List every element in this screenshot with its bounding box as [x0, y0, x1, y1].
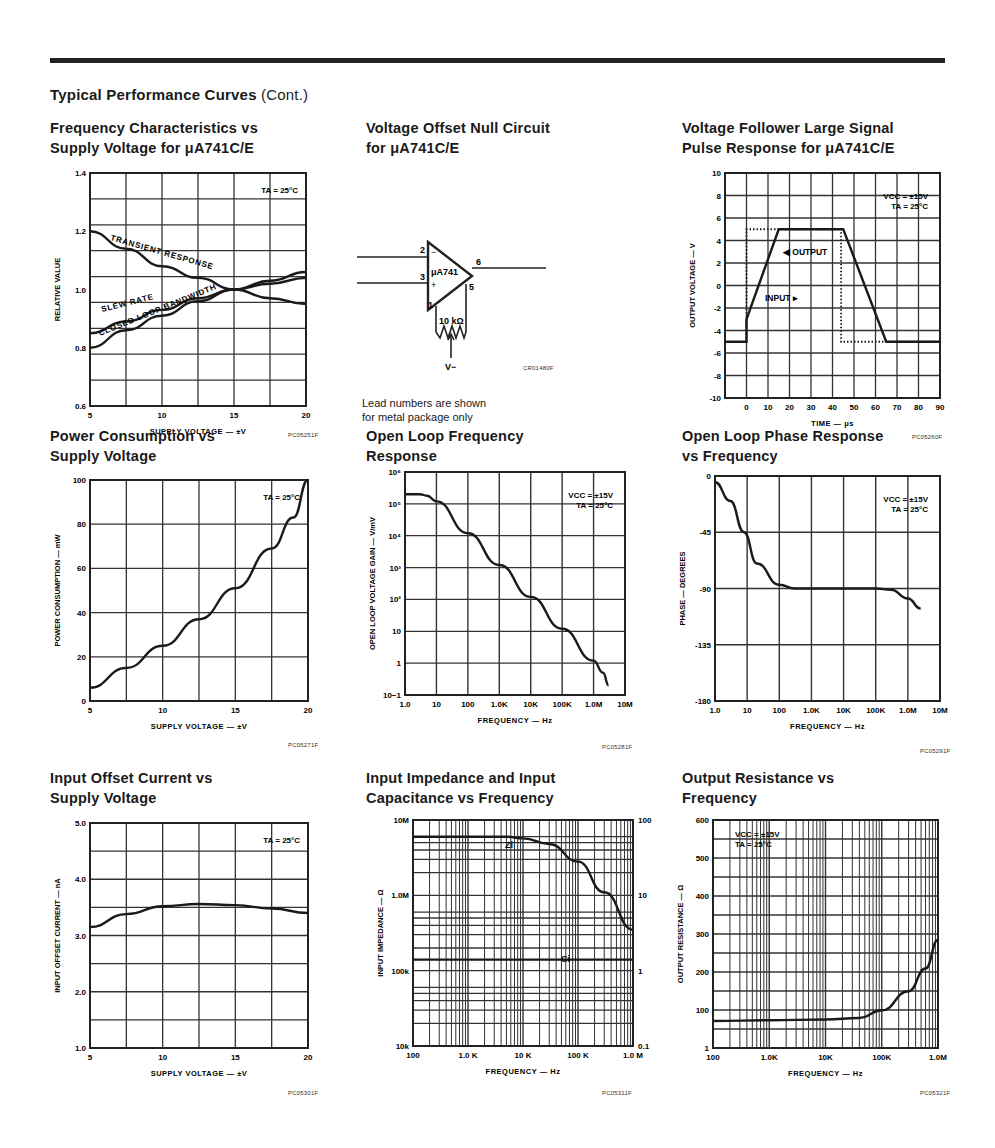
chart-input-offset-current: 51015201.02.03.04.05.0SUPPLY VOLTAGE — ±… — [40, 815, 330, 1085]
x-tick-label: 20 — [785, 403, 794, 412]
x-axis-label: FREQUENCY — Hz — [788, 1069, 863, 1078]
y-tick-label: 10M — [393, 816, 409, 825]
pin-5-label: 5 — [469, 282, 474, 292]
svg-text:VCC = ±15V: VCC = ±15V — [883, 495, 928, 504]
y-tick-label: 10⁴ — [388, 532, 401, 541]
y-tick-label: 1.0 — [75, 286, 87, 295]
y-tick-label: 10−1 — [383, 691, 402, 700]
y-axis-label: OUTPUT VOLTAGE — V — [688, 243, 697, 328]
x-tick-label: 80 — [914, 403, 923, 412]
x-tick-label: 10M — [617, 700, 633, 709]
y-tick-label: 8 — [717, 192, 722, 201]
x-tick-label: 1.0K — [491, 700, 508, 709]
x-tick-label: 50 — [850, 403, 859, 412]
y-tick-label: 10 — [712, 169, 721, 178]
x-tick-label: 100K — [872, 1053, 891, 1062]
x-tick-label: 10K — [523, 700, 538, 709]
grid — [713, 820, 938, 1048]
y-tick-label: 500 — [696, 854, 710, 863]
y-tick-label: 4 — [717, 237, 722, 246]
x-tick-label: 10 — [432, 700, 441, 709]
y-tick-label: 1 — [397, 659, 402, 668]
figure-code: PC05321F — [920, 1090, 950, 1096]
y-tick-label: 10⁵ — [388, 500, 401, 509]
svg-text:VCC = ±15V: VCC = ±15V — [735, 830, 780, 839]
y-tick-label: 10² — [389, 595, 401, 604]
y-tick-label: 400 — [696, 892, 710, 901]
y-tick-label: 1.2 — [75, 227, 87, 236]
y-tick-label: -135 — [695, 641, 712, 650]
y2-tick-label: 10 — [638, 891, 647, 900]
x-tick-label: 90 — [936, 403, 945, 412]
chart-output-resistance: 1001.0K10K100K1.0M1100200300400500600FRE… — [675, 812, 955, 1084]
olgain-title: Open Loop Frequency Response — [366, 426, 524, 466]
x-tick-label: 10 — [764, 403, 773, 412]
y-tick-label: -45 — [699, 528, 711, 537]
figure-code: PC05311F — [602, 1090, 632, 1096]
y-axis-label: INPUT IMPEDANCE — Ω — [376, 889, 385, 976]
conditions-annotation: VCC = ±15VTA = 25°C — [883, 192, 928, 211]
series-label: Ci — [561, 954, 570, 964]
x-tick-label: 15 — [230, 411, 239, 420]
x-tick-label: 5 — [88, 706, 93, 715]
y-tick-label: 20 — [77, 653, 86, 662]
x-tick-label: 100 K — [567, 1051, 589, 1060]
pin-6-label: 6 — [476, 257, 481, 267]
svg-text:TA = 25°C: TA = 25°C — [261, 186, 298, 195]
pin-3-label: 3 — [420, 272, 425, 282]
x-tick-label: 0 — [744, 403, 749, 412]
x-tick-label: 20 — [304, 1053, 313, 1062]
x-tick-label: 1.0K — [803, 706, 820, 715]
y-tick-label: 100 — [696, 1006, 710, 1015]
x-tick-label: 5 — [88, 411, 93, 420]
grid — [90, 823, 308, 1048]
y-tick-label: 1 — [705, 1044, 710, 1053]
svg-text:TA = 25°C: TA = 25°C — [263, 836, 300, 845]
x-tick-label: 100 — [706, 1053, 720, 1062]
x-tick-label: 70 — [893, 403, 902, 412]
rout-title: Output Resistance vs Frequency — [682, 768, 834, 808]
conditions-annotation: VCC = ±15VTA = 25°C — [568, 491, 613, 510]
header-rule — [50, 58, 945, 63]
y-tick-label: 10³ — [389, 564, 401, 573]
y-axis-label: OPEN LOOP VOLTAGE GAIN — V/mV — [368, 517, 377, 650]
x-axis-label: SUPPLY VOLTAGE — ±V — [150, 427, 247, 435]
freq-char-title: Frequency Characteristics vs Supply Volt… — [50, 118, 258, 158]
x-tick-label: 15 — [231, 706, 240, 715]
x-tick-label: 30 — [807, 403, 816, 412]
x-axis-label: FREQUENCY — Hz — [790, 722, 865, 731]
y-tick-label: -90 — [699, 585, 711, 594]
x-axis-label: SUPPLY VOLTAGE — ±V — [151, 722, 248, 731]
svg-text:TA = 25°C: TA = 25°C — [735, 840, 772, 849]
figure-code: PC05271F — [288, 742, 318, 748]
pin-2-label: 2 — [420, 245, 425, 255]
x-tick-label: 1.0 — [709, 706, 721, 715]
y-tick-label: 2.0 — [75, 988, 87, 997]
x-tick-label: 10 — [158, 706, 167, 715]
figure-code: PC05281F — [602, 744, 632, 750]
x-tick-label: 100 — [461, 700, 475, 709]
chart-power-consumption: 5101520020406080100SUPPLY VOLTAGE — ±VPO… — [40, 470, 330, 740]
x-tick-label: 10M — [932, 706, 948, 715]
x-tick-label: 5 — [88, 1053, 93, 1062]
y-tick-label: 200 — [696, 968, 710, 977]
x-tick-label: 10 K — [515, 1051, 532, 1060]
x-axis-label: TIME — μs — [811, 419, 854, 428]
svg-text:TA = 25°C: TA = 25°C — [891, 505, 928, 514]
svg-text:VCC = ±15V: VCC = ±15V — [883, 192, 928, 201]
chart-open-loop-phase: 1.0101001.0K10K100K1.0M10M0-45-90-135-18… — [675, 468, 955, 740]
y-axis-label: PHASE — DEGREES — [678, 551, 687, 625]
svg-text:VCC = ±15V: VCC = ±15V — [568, 491, 613, 500]
y-axis-label: OUTPUT RESISTANCE — Ω — [676, 885, 685, 983]
x-axis-label: SUPPLY VOLTAGE — ±V — [151, 1069, 248, 1078]
x-tick-label: 10K — [836, 706, 851, 715]
y-tick-label: 10k — [396, 1042, 410, 1051]
x-tick-label: 1.0K — [761, 1053, 778, 1062]
svg-text:TA = 25°C: TA = 25°C — [263, 493, 300, 502]
x-tick-label: 20 — [304, 706, 313, 715]
y-tick-label: -6 — [714, 349, 722, 358]
y-axis-label: RELATIVE VALUE — [53, 258, 62, 321]
x-tick-label: 60 — [871, 403, 880, 412]
grid — [413, 820, 633, 1046]
y-tick-label: 10⁶ — [388, 468, 401, 477]
